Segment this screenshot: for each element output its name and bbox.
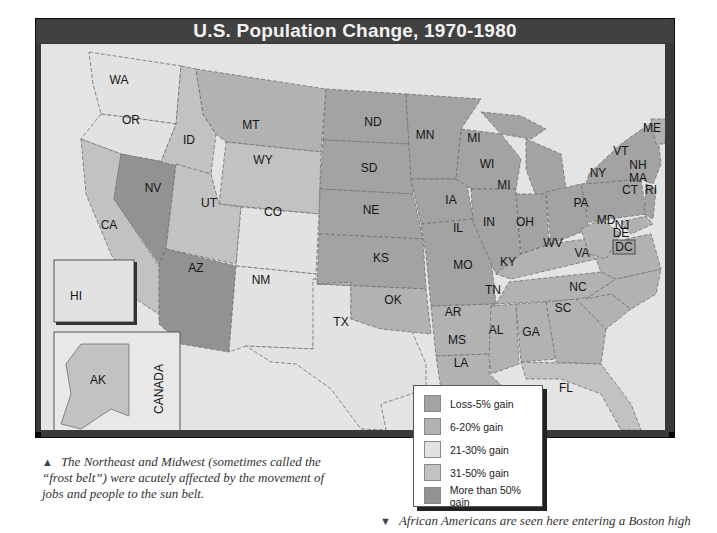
svg-text:SD: SD xyxy=(361,161,378,175)
svg-text:IN: IN xyxy=(483,215,495,229)
svg-text:WV: WV xyxy=(543,236,562,250)
legend-item: 21-30% gain xyxy=(424,438,542,461)
legend-label: 21-30% gain xyxy=(450,444,509,456)
state-MI xyxy=(526,139,566,196)
state-NM xyxy=(229,266,316,352)
legend-item: 6-20% gain xyxy=(424,415,542,438)
svg-text:MI: MI xyxy=(467,131,480,145)
svg-text:KY: KY xyxy=(500,255,516,269)
svg-text:DE: DE xyxy=(613,226,630,240)
caption-text: African Americans are seen here entering… xyxy=(399,513,691,528)
svg-text:WI: WI xyxy=(480,157,495,171)
svg-text:SC: SC xyxy=(555,301,572,315)
svg-text:NV: NV xyxy=(145,181,162,195)
svg-text:CO: CO xyxy=(264,205,282,219)
caption-boston: ▼African Americans are seen here enterin… xyxy=(380,513,717,529)
legend-label: 6-20% gain xyxy=(450,421,503,433)
state-KS xyxy=(317,234,426,289)
us-map: WA OR CA NV ID MT WY UT CO AZ NM TX ND S… xyxy=(41,44,665,430)
svg-text:FL: FL xyxy=(559,381,573,395)
svg-text:AK: AK xyxy=(90,373,106,387)
svg-text:VA: VA xyxy=(574,246,589,260)
svg-text:LA: LA xyxy=(454,356,469,370)
svg-text:KS: KS xyxy=(373,251,389,265)
svg-text:CANADA: CANADA xyxy=(152,364,166,414)
caption-frost-belt: ▲The Northeast and Midwest (sometimes ca… xyxy=(42,454,342,502)
legend-swatch xyxy=(424,464,441,481)
svg-text:PA: PA xyxy=(573,196,588,210)
svg-text:OK: OK xyxy=(384,293,401,307)
state-AR xyxy=(431,304,496,356)
svg-text:VT: VT xyxy=(613,144,629,158)
legend-label: More than 50% gain xyxy=(450,484,542,508)
svg-text:AZ: AZ xyxy=(188,261,203,275)
svg-text:UT: UT xyxy=(201,196,218,210)
legend-swatch xyxy=(424,395,441,412)
hawaii-inset: HI xyxy=(54,260,137,325)
svg-text:NY: NY xyxy=(590,166,607,180)
svg-text:IL: IL xyxy=(453,221,463,235)
legend: Loss-5% gain 6-20% gain 21-30% gain 31-5… xyxy=(413,385,543,507)
svg-text:TX: TX xyxy=(333,315,348,329)
svg-text:GA: GA xyxy=(522,325,539,339)
svg-text:WY: WY xyxy=(253,153,272,167)
map-title: U.S. Population Change, 1970-1980 xyxy=(36,19,674,43)
svg-text:CT: CT xyxy=(622,183,639,197)
svg-text:NH: NH xyxy=(629,158,646,172)
frame-corner xyxy=(669,432,675,438)
alaska-inset: AK CANADA xyxy=(54,332,180,430)
svg-text:ID: ID xyxy=(183,133,195,147)
legend-item: Loss-5% gain xyxy=(424,392,542,415)
frame-corner xyxy=(35,432,41,438)
triangle-up-icon: ▲ xyxy=(42,456,53,468)
svg-text:DC: DC xyxy=(615,240,633,254)
svg-text:MT: MT xyxy=(242,118,260,132)
svg-text:HI: HI xyxy=(70,289,82,303)
legend-label: Loss-5% gain xyxy=(450,398,514,410)
svg-text:MD: MD xyxy=(597,213,616,227)
legend-item: More than 50% gain xyxy=(424,484,542,507)
map-frame: U.S. Population Change, 1970-1980 xyxy=(35,18,675,438)
svg-text:NE: NE xyxy=(363,203,380,217)
svg-text:WA: WA xyxy=(110,73,129,87)
svg-text:NC: NC xyxy=(569,280,587,294)
state-IA xyxy=(411,179,473,224)
svg-text:MO: MO xyxy=(453,258,472,272)
svg-text:ND: ND xyxy=(364,115,382,129)
state-MS xyxy=(489,304,519,374)
legend-label: 31-50% gain xyxy=(450,467,509,479)
svg-text:TN: TN xyxy=(485,283,501,297)
svg-text:MS: MS xyxy=(448,333,466,347)
svg-text:AL: AL xyxy=(489,323,504,337)
svg-text:OH: OH xyxy=(516,215,534,229)
svg-text:MI: MI xyxy=(497,178,510,192)
svg-text:MN: MN xyxy=(416,128,435,142)
svg-text:IA: IA xyxy=(445,193,456,207)
legend-swatch xyxy=(424,487,441,504)
svg-text:CA: CA xyxy=(101,218,118,232)
svg-text:ME: ME xyxy=(643,121,661,135)
legend-swatch xyxy=(424,418,441,435)
triangle-down-icon: ▼ xyxy=(380,515,391,527)
legend-swatch xyxy=(424,441,441,458)
svg-text:RI: RI xyxy=(645,183,657,197)
caption-text: The Northeast and Midwest (sometimes cal… xyxy=(42,454,324,501)
map-area: WA OR CA NV ID MT WY UT CO AZ NM TX ND S… xyxy=(41,44,665,430)
legend-item: 31-50% gain xyxy=(424,461,542,484)
svg-text:AR: AR xyxy=(445,305,462,319)
svg-text:NM: NM xyxy=(252,273,271,287)
svg-text:OR: OR xyxy=(122,113,140,127)
